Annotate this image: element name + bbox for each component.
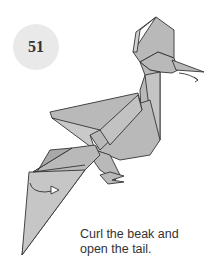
instruction-caption: Curl the beak and open the tail. (80, 227, 179, 257)
beak (172, 60, 204, 72)
curl-arrow-icon (179, 73, 198, 82)
caption-line-2: open the tail. (80, 242, 179, 257)
foot (100, 172, 124, 184)
caption-line-1: Curl the beak and (80, 227, 179, 242)
